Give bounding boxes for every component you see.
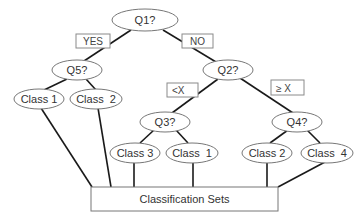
node-q2-label: Q2?	[218, 64, 239, 76]
edge-q3-class1	[176, 130, 188, 143]
tree-edges	[41, 30, 325, 187]
edge-label-no: NO	[182, 34, 213, 48]
node-q4: Q4?	[272, 112, 322, 132]
edge-q4-class2	[270, 130, 288, 143]
edge-class2a-sink	[98, 108, 111, 187]
edge-label-yes: YES	[76, 34, 110, 48]
leaf-class1-right: Class 1	[166, 143, 218, 163]
leaf-class3: Class 3	[110, 143, 160, 163]
edge-class4-sink	[278, 162, 325, 187]
edge-label-ge-x-text: ≥ X	[276, 83, 291, 94]
leaf-class4: Class 4	[301, 143, 353, 163]
node-q1: Q1?	[112, 9, 178, 31]
leaf-class2-right-label: Class 2	[249, 147, 286, 159]
leaf-class1-left: Class 1	[14, 89, 64, 109]
node-q4-label: Q4?	[287, 116, 308, 128]
node-q3: Q3?	[140, 112, 190, 132]
node-q2: Q2?	[203, 60, 253, 80]
edge-label-less-than-x-text: <X	[172, 85, 185, 96]
edge-q5-class1	[44, 79, 67, 90]
leaf-class2-left: Class 2	[70, 89, 122, 109]
edge-q3-class3	[140, 130, 154, 143]
leaf-class3-label: Class 3	[117, 147, 154, 159]
edge-label-ge-x: ≥ X	[271, 80, 304, 95]
node-q5-label: Q5?	[67, 64, 88, 76]
edge-class1a-sink	[41, 108, 92, 187]
node-q1-label: Q1?	[135, 14, 156, 26]
edge-label-yes-text: YES	[83, 36, 103, 47]
edge-label-less-than-x: <X	[167, 83, 198, 97]
leaf-class2-right: Class 2	[242, 143, 292, 163]
edge-q5-class2	[86, 79, 96, 90]
classification-sets-label: Classification Sets	[140, 193, 230, 205]
edge-q4-class4	[307, 130, 320, 143]
classification-sets-box: Classification Sets	[91, 187, 278, 211]
node-q3-label: Q3?	[155, 116, 176, 128]
leaf-class4-label: Class 4	[307, 147, 347, 159]
leaf-class1-left-label: Class 1	[21, 93, 58, 105]
edge-label-no-text: NO	[190, 36, 205, 47]
leaf-class1-right-label: Class 1	[172, 147, 212, 159]
node-q5: Q5?	[52, 60, 102, 80]
leaf-class2-left-label: Class 2	[76, 93, 116, 105]
decision-tree-diagram: YES NO <X ≥ X Q1? Q5? Q2? Q3? Q4? Class …	[0, 0, 362, 223]
